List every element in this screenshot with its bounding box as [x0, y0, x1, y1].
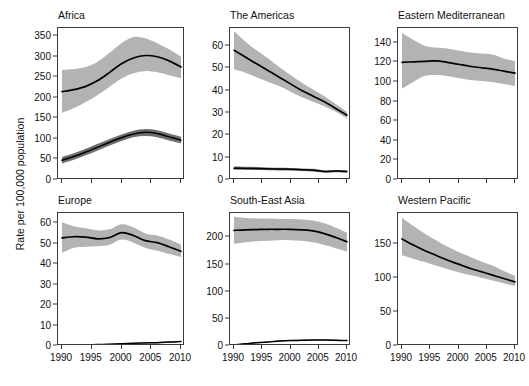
- panel-title: Africa: [58, 9, 85, 21]
- x-tick-label: 2010: [169, 352, 191, 363]
- y-tick-mark: [53, 76, 57, 77]
- x-tick-mark: [61, 345, 62, 349]
- y-tick-label: 100: [367, 75, 391, 86]
- x-tick-mark: [401, 179, 402, 183]
- y-tick-mark: [53, 283, 57, 284]
- y-tick-label: 50: [199, 62, 223, 73]
- series-canvas: [230, 213, 350, 345]
- y-tick-mark: [393, 310, 397, 311]
- plot-area: [57, 212, 184, 345]
- x-tick-mark: [346, 345, 347, 349]
- panel-title: Eastern Mediterranean: [398, 9, 505, 21]
- x-tick-label: 2010: [335, 352, 357, 363]
- y-tick-label: 60: [367, 115, 391, 126]
- x-tick-mark: [61, 179, 62, 183]
- plot-area: [397, 212, 518, 345]
- confidence-band-incidence: [62, 222, 181, 257]
- y-tick-label: 20: [367, 154, 391, 165]
- x-tick-mark: [91, 179, 92, 183]
- panel-title: Western Pacific: [398, 194, 471, 206]
- y-tick-mark: [53, 137, 57, 138]
- x-tick-mark: [346, 179, 347, 183]
- x-tick-label: 1995: [250, 352, 272, 363]
- panel-western-pacific: Western Pacific0501001501990199520002005…: [0, 0, 529, 386]
- trend-line-incidence: [402, 239, 515, 282]
- y-tick-label: 200: [199, 231, 223, 242]
- y-tick-mark: [393, 120, 397, 121]
- x-tick-label: 2005: [307, 352, 329, 363]
- x-tick-mark: [429, 179, 430, 183]
- y-tick-mark: [393, 139, 397, 140]
- confidence-band-incidence: [234, 217, 347, 252]
- y-tick-mark: [393, 61, 397, 62]
- y-tick-label: 20: [27, 299, 51, 310]
- x-tick-mark: [290, 179, 291, 183]
- y-tick-mark: [53, 222, 57, 223]
- x-tick-mark: [458, 179, 459, 183]
- series-canvas: [230, 28, 350, 179]
- y-tick-mark: [225, 317, 229, 318]
- x-tick-mark: [121, 179, 122, 183]
- y-tick-label: 250: [27, 71, 51, 82]
- y-tick-label: 60: [199, 39, 223, 50]
- y-axis-label: Rate per 100,000 population: [14, 84, 26, 284]
- y-tick-mark: [393, 159, 397, 160]
- x-tick-label: 2005: [139, 352, 161, 363]
- y-tick-mark: [53, 96, 57, 97]
- panel-africa: Africa050100150200250300350: [0, 0, 529, 386]
- panel-south-east-asia: South-East Asia0501001502001990199520002…: [0, 0, 529, 386]
- y-tick-label: 150: [27, 112, 51, 123]
- panel-the-americas: The Americas0102030405060: [0, 0, 529, 386]
- confidence-band-mortality: [402, 178, 515, 179]
- y-tick-label: 200: [27, 91, 51, 102]
- panel-title: South-East Asia: [230, 194, 305, 206]
- figure-panel-grid: Rate per 100,000 population Africa050100…: [0, 0, 529, 386]
- y-tick-label: 20: [199, 129, 223, 140]
- y-tick-label: 80: [367, 95, 391, 106]
- confidence-band-incidence: [402, 33, 515, 89]
- x-tick-mark: [486, 345, 487, 349]
- y-tick-label: 0: [27, 340, 51, 351]
- y-tick-label: 350: [27, 30, 51, 41]
- y-tick-label: 0: [367, 340, 391, 351]
- y-tick-mark: [53, 304, 57, 305]
- plot-area: [229, 212, 350, 345]
- plot-area: [57, 27, 184, 179]
- panel-europe: Europe010203040506019901995200020052010: [0, 0, 529, 386]
- y-tick-mark: [53, 345, 57, 346]
- y-tick-mark: [225, 67, 229, 68]
- confidence-band-incidence: [234, 31, 347, 118]
- y-tick-label: 10: [27, 319, 51, 330]
- panel-title: The Americas: [230, 9, 294, 21]
- confidence-band-mortality: [234, 339, 347, 345]
- x-tick-label: 1990: [390, 352, 412, 363]
- x-tick-mark: [429, 345, 430, 349]
- y-tick-label: 0: [27, 174, 51, 185]
- confidence-band-incidence: [402, 218, 515, 286]
- y-tick-label: 0: [199, 340, 223, 351]
- y-tick-label: 50: [367, 305, 391, 316]
- x-tick-mark: [486, 179, 487, 183]
- trend-line-incidence: [62, 55, 181, 91]
- y-tick-label: 120: [367, 56, 391, 67]
- y-tick-label: 300: [27, 50, 51, 61]
- y-tick-label: 150: [367, 237, 391, 248]
- y-tick-label: 0: [199, 174, 223, 185]
- y-tick-mark: [225, 263, 229, 264]
- y-tick-mark: [53, 158, 57, 159]
- y-tick-mark: [225, 156, 229, 157]
- y-tick-label: 30: [27, 278, 51, 289]
- y-tick-mark: [53, 35, 57, 36]
- x-tick-mark: [290, 345, 291, 349]
- panel-title: Europe: [58, 194, 92, 206]
- panel-eastern-mediterranean: Eastern Mediterranean020406080100120140: [0, 0, 529, 386]
- y-tick-mark: [393, 242, 397, 243]
- trend-line-mortality: [234, 168, 347, 171]
- x-tick-label: 1990: [222, 352, 244, 363]
- y-tick-label: 50: [27, 237, 51, 248]
- trend-line-mortality: [62, 132, 181, 160]
- x-tick-mark: [261, 345, 262, 349]
- y-tick-mark: [393, 179, 397, 180]
- y-tick-mark: [225, 44, 229, 45]
- trend-line-incidence: [234, 50, 347, 115]
